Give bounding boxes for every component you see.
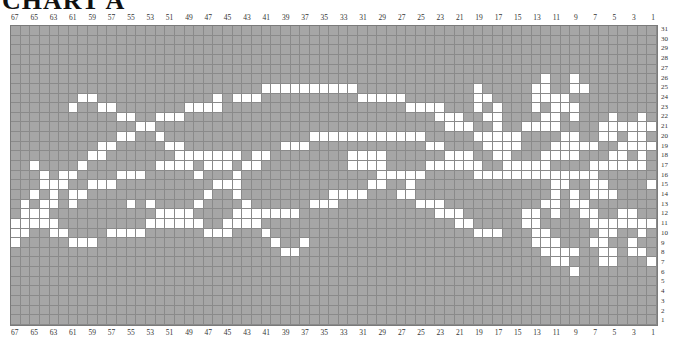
- chart-cell: [455, 36, 465, 46]
- chart-cell: [416, 219, 426, 229]
- chart-cell: [387, 151, 397, 161]
- chart-cell: [156, 315, 166, 325]
- chart-cell: [599, 132, 609, 142]
- chart-cell: [483, 161, 493, 171]
- chart-cell: [339, 248, 349, 258]
- chart-cell: [69, 257, 79, 267]
- chart-cell: [185, 248, 195, 258]
- chart-cell: [271, 94, 281, 104]
- chart-cell: [493, 161, 503, 171]
- chart-cell: [339, 171, 349, 181]
- chart-cell: [599, 45, 609, 55]
- chart-cell: [483, 36, 493, 46]
- chart-cell: [503, 190, 513, 200]
- chart-cell: [647, 171, 657, 181]
- chart-cell: [416, 315, 426, 325]
- chart-cell: [522, 315, 532, 325]
- chart-cell: [445, 55, 455, 65]
- chart-cell: [21, 122, 31, 132]
- chart-cell: [541, 45, 551, 55]
- chart-cell: [117, 219, 127, 229]
- chart-cell: [445, 219, 455, 229]
- chart-cell: [165, 65, 175, 75]
- chart-cell: [628, 315, 638, 325]
- chart-cell: [618, 219, 628, 229]
- chart-cell: [522, 55, 532, 65]
- chart-cell: [300, 238, 310, 248]
- chart-cell: [377, 103, 387, 113]
- chart-cell: [609, 103, 619, 113]
- chart-cell: [40, 84, 50, 94]
- chart-cell: [69, 267, 79, 277]
- chart-cell: [194, 286, 204, 296]
- chart-cell: [21, 171, 31, 181]
- chart-cell: [213, 161, 223, 171]
- chart-cell: [320, 315, 330, 325]
- chart-cell: [618, 26, 628, 36]
- chart-cell: [609, 36, 619, 46]
- chart-cell: [185, 190, 195, 200]
- chart-cell: [281, 36, 291, 46]
- chart-cell: [638, 257, 648, 267]
- chart-cell: [358, 229, 368, 239]
- chart-cell: [252, 277, 262, 287]
- chart-cell: [156, 151, 166, 161]
- chart-cell: [281, 161, 291, 171]
- row-label: 28: [661, 54, 668, 64]
- chart-cell: [647, 277, 657, 287]
- chart-cell: [329, 161, 339, 171]
- row-label: 25: [661, 83, 668, 93]
- chart-cell: [233, 315, 243, 325]
- row-label: 16: [661, 171, 668, 181]
- chart-cell: [522, 277, 532, 287]
- chart-cell: [320, 36, 330, 46]
- chart-cell: [561, 161, 571, 171]
- chart-cell: [310, 200, 320, 210]
- chart-cell: [368, 26, 378, 36]
- chart-cell: [136, 132, 146, 142]
- chart-cell: [88, 55, 98, 65]
- chart-cell: [175, 103, 185, 113]
- chart-cell: [397, 74, 407, 84]
- chart-cell: [464, 171, 474, 181]
- chart-cell: [368, 257, 378, 267]
- chart-cell: [30, 74, 40, 84]
- chart-cell: [165, 132, 175, 142]
- chart-cell: [185, 257, 195, 267]
- chart-cell: [136, 209, 146, 219]
- chart-cell: [609, 180, 619, 190]
- column-label: 17: [489, 13, 508, 22]
- chart-cell: [493, 306, 503, 316]
- column-label: 47: [199, 328, 218, 337]
- chart-cell: [223, 26, 233, 36]
- chart-cell: [628, 306, 638, 316]
- chart-cell: [590, 286, 600, 296]
- row-label: 3: [661, 297, 665, 307]
- chart-cell: [69, 142, 79, 152]
- chart-cell: [30, 142, 40, 152]
- chart-cell: [551, 306, 561, 316]
- chart-cell: [561, 257, 571, 267]
- chart-cell: [146, 94, 156, 104]
- chart-cell: [570, 142, 580, 152]
- chart-cell: [638, 113, 648, 123]
- chart-cell: [291, 161, 301, 171]
- chart-cell: [69, 190, 79, 200]
- chart-cell: [426, 84, 436, 94]
- chart-cell: [69, 113, 79, 123]
- chart-cell: [88, 45, 98, 55]
- chart-cell: [647, 229, 657, 239]
- chart-cell: [194, 277, 204, 287]
- chart-cell: [50, 238, 60, 248]
- chart-cell: [204, 286, 214, 296]
- chart-cell: [50, 94, 60, 104]
- chart-cell: [561, 36, 571, 46]
- chart-cell: [377, 296, 387, 306]
- chart-cell: [233, 55, 243, 65]
- chart-cell: [368, 180, 378, 190]
- chart-cell: [156, 257, 166, 267]
- chart-cell: [185, 267, 195, 277]
- chart-cell: [233, 45, 243, 55]
- chart-cell: [435, 286, 445, 296]
- chart-cell: [252, 84, 262, 94]
